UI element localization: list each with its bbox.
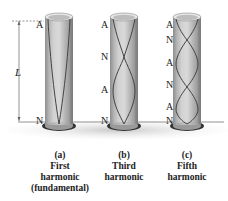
caption-c-line1: Fifth: [159, 161, 215, 172]
tube-c-label-1: A: [166, 20, 173, 30]
caption-c: (c) Fifth harmonic: [159, 150, 215, 183]
tube-a: [42, 13, 76, 131]
tube-a-label-antinode-top: A: [36, 20, 43, 30]
tube-b: [107, 13, 141, 131]
tube-c-label-4: N: [166, 80, 173, 90]
caption-c-letter: (c): [159, 150, 215, 161]
tube-b-label-3: A: [101, 85, 108, 95]
caption-a-line3: (fundamental): [24, 183, 96, 194]
caption-c-line2: harmonic: [159, 172, 215, 183]
caption-b-line2: harmonic: [96, 172, 152, 183]
tube-c-label-2: N: [166, 35, 173, 45]
tube-c-label-6: N: [166, 116, 173, 126]
tube-c: [170, 13, 204, 131]
caption-b-line1: Third: [96, 161, 152, 172]
caption-a-line1: First: [24, 161, 96, 172]
caption-a-line2: harmonic: [24, 172, 96, 183]
tube-a-label-node-bottom: N: [36, 116, 43, 126]
caption-a-letter: (a): [24, 150, 96, 161]
caption-b: (b) Third harmonic: [96, 150, 152, 183]
caption-a: (a) First harmonic (fundamental): [24, 150, 96, 194]
tube-b-label-2: N: [101, 52, 108, 62]
tube-b-label-4: N: [101, 116, 108, 126]
tube-c-label-5: A: [166, 102, 173, 112]
tube-b-label-1: A: [101, 20, 108, 30]
length-label: L: [15, 66, 21, 78]
caption-b-letter: (b): [96, 150, 152, 161]
tube-c-label-3: A: [166, 58, 173, 68]
